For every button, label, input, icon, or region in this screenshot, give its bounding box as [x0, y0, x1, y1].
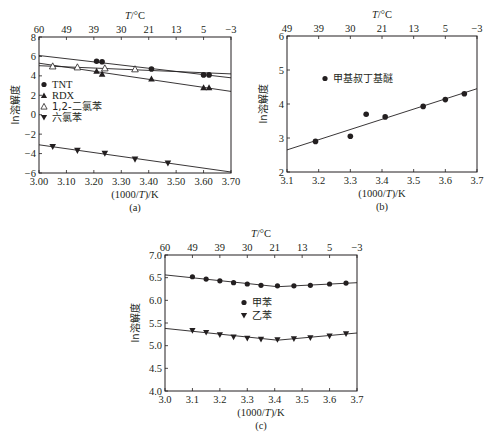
y-tick-label: −4 [25, 148, 37, 159]
legend-label: 1,2-二氯苯 [52, 100, 102, 112]
top-axis-title: T/°C [125, 10, 145, 21]
y-axis-title: ln溶解度 [129, 303, 141, 342]
legend-item: 乙苯 [241, 309, 272, 321]
top-tick-label: 5 [443, 23, 448, 34]
series-0 [165, 274, 357, 288]
x-tick-label: 3.40 [140, 176, 158, 187]
x-tick-label: 3.2 [213, 394, 226, 405]
top-tick-label: 30 [345, 23, 356, 34]
x-tick-label: 3.7 [470, 175, 483, 186]
legend-label: 乙苯 [252, 309, 272, 321]
chart-panel-a: 3.003.103.203.303.403.503.603.7060493930… [9, 10, 240, 214]
data-point-marker [217, 278, 222, 283]
data-point-marker [420, 104, 426, 110]
legend-marker [41, 82, 46, 87]
series-1 [165, 328, 357, 343]
data-point-marker [343, 281, 348, 286]
y-tick-label: −6 [25, 168, 36, 179]
panel-caption: (b) [376, 201, 389, 213]
top-tick-label: 21 [269, 242, 280, 253]
top-tick-label: 30 [116, 24, 127, 35]
x-tick-label: 3.50 [167, 176, 185, 187]
data-point-marker [204, 276, 209, 281]
legend-label: RDX [52, 90, 75, 101]
data-point-marker [206, 84, 213, 90]
x-tick-label: 3.5 [296, 394, 309, 405]
data-point-marker [231, 280, 236, 285]
x-tick-label: 3.60 [194, 176, 212, 187]
data-point-marker [94, 58, 100, 64]
top-tick-label: 39 [313, 23, 324, 34]
data-point-marker [326, 334, 332, 340]
data-point-marker [99, 59, 105, 65]
data-point-marker [327, 281, 332, 286]
data-point-marker [102, 65, 109, 71]
data-point-marker [363, 111, 369, 117]
top-tick-label: −3 [351, 242, 362, 253]
x-tick-label: 3.3 [241, 394, 254, 405]
x-tick-label: 3.2 [312, 175, 325, 186]
panel-caption: (c) [255, 420, 267, 432]
data-point-marker [275, 283, 280, 288]
y-tick-label: 6.0 [149, 295, 162, 306]
x-tick-label: 3.10 [57, 176, 75, 187]
top-tick-label: −3 [225, 24, 236, 35]
data-point-marker [308, 283, 313, 288]
top-tick-label: 21 [377, 23, 388, 34]
top-tick-label: 13 [297, 242, 308, 253]
legend-item: 六氯苯 [41, 111, 82, 123]
x-axis-title: (1000/T)/K [237, 407, 285, 419]
data-point-marker [382, 114, 388, 120]
y-tick-label: 2 [31, 90, 36, 101]
data-point-marker [244, 336, 250, 342]
y-tick-label: 5 [279, 65, 284, 76]
y-tick-label: 6.5 [149, 272, 162, 283]
top-axis-title: T/°C [372, 9, 392, 20]
y-tick-label: 2 [279, 167, 284, 178]
series-0 [287, 89, 477, 150]
legend-marker [322, 76, 327, 81]
legend-label: 六氯苯 [52, 111, 82, 123]
figure: 3.003.103.203.303.403.503.603.7060493930… [0, 0, 490, 440]
chart-panel-b: 3.13.23.33.43.53.63.749393021135−323456T… [257, 9, 484, 213]
legend-marker [241, 313, 247, 319]
top-tick-label: 49 [61, 24, 72, 35]
data-point-marker [217, 332, 223, 338]
top-tick-label: 21 [143, 24, 154, 35]
x-tick-label: 3.4 [268, 394, 282, 405]
top-axis-title: T/°C [251, 228, 271, 239]
data-point-marker [291, 283, 296, 288]
plot-frame [287, 36, 477, 172]
data-point-marker [230, 334, 236, 340]
y-tick-label: 4 [279, 99, 285, 110]
legend-marker [41, 103, 47, 109]
x-axis-title: (1000/T)/K [111, 189, 159, 201]
y-tick-label: −2 [25, 129, 36, 140]
top-tick-label: 5 [201, 24, 206, 35]
y-tick-label: 6 [279, 31, 284, 42]
data-point-marker [258, 283, 263, 288]
data-point-marker [245, 281, 250, 286]
data-point-marker [132, 157, 139, 163]
y-tick-label: 4 [31, 70, 37, 81]
legend-label: TNT [52, 79, 73, 90]
legend-label: 甲基叔丁基醚 [333, 72, 393, 84]
data-point-marker [190, 274, 195, 279]
data-point-marker [348, 134, 354, 140]
data-point-marker [462, 91, 468, 97]
data-point-marker [313, 139, 319, 145]
x-tick-label: 3.30 [112, 176, 130, 187]
y-tick-label: 0 [31, 109, 36, 120]
y-tick-label: 8 [31, 32, 36, 43]
data-point-marker [307, 335, 313, 341]
legend-marker [241, 300, 246, 305]
y-axis-title: ln溶解度 [9, 85, 21, 124]
x-tick-label: 3.20 [85, 176, 103, 187]
data-point-marker [148, 75, 155, 81]
y-tick-label: 5.0 [149, 340, 162, 351]
y-tick-label: 3 [279, 133, 284, 144]
x-tick-label: 3.1 [186, 394, 199, 405]
top-tick-label: 30 [242, 242, 253, 253]
y-axis-title: ln溶解度 [257, 84, 269, 123]
x-tick-label: 3.70 [222, 176, 240, 187]
